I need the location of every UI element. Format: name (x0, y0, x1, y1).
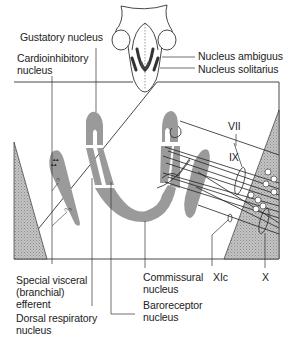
label-dorsal-respiratory-nucleus: Dorsal respiratory nucleus (16, 312, 97, 336)
label-nerve-xic: XIc (213, 271, 228, 283)
brainstem-inset (112, 5, 176, 92)
label-baroreceptor-nucleus: Baroreceptor nucleus (143, 299, 203, 323)
label-cardioinhibitory-nucleus: Cardioinhibitory nucleus (17, 52, 88, 76)
label-nucleus-solitarius: Nucleus solitarius (198, 63, 278, 75)
nucleus-solitarius-u (86, 111, 180, 222)
label-nerve-vii: VII (228, 120, 241, 132)
svg-text:◇◇: ◇◇ (64, 206, 72, 212)
label-nerve-x: X (262, 271, 269, 283)
label-gustatory-nucleus: Gustatory nucleus (20, 31, 103, 43)
label-commissural-nucleus: Commissural nucleus (143, 271, 203, 295)
label-special-visceral-efferent: Special visceral (branchial) efferent (16, 274, 87, 310)
svg-text:◇: ◇ (56, 176, 60, 182)
label-nucleus-ambiguus: Nucleus ambiguus (198, 50, 283, 62)
left-hatched-region (14, 142, 47, 259)
label-nerve-ix: IX (229, 151, 239, 163)
diagram-stage: ▴▴ ▴▴ ◇ ◇◇ (0, 0, 292, 342)
